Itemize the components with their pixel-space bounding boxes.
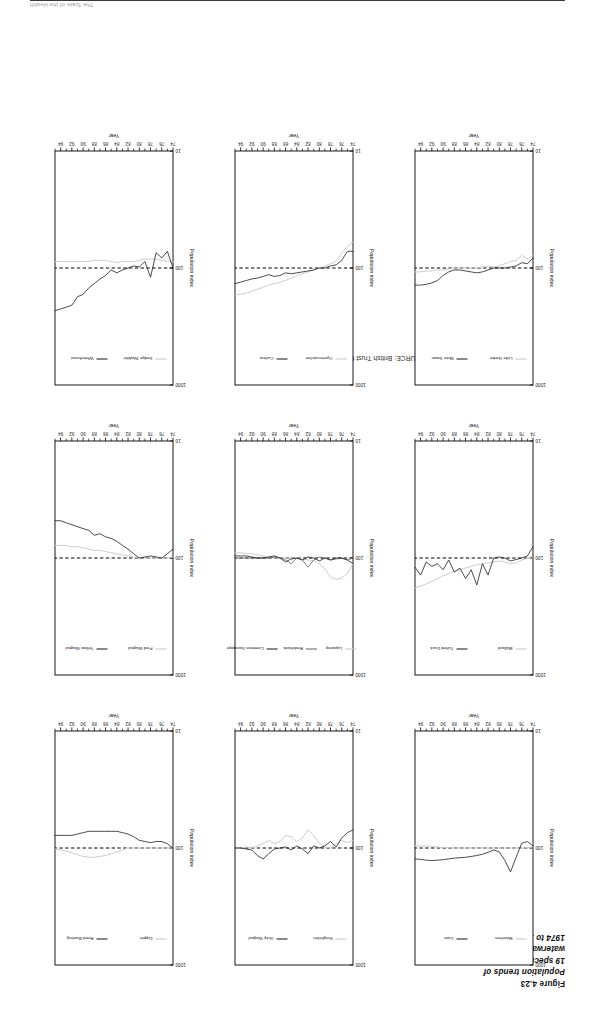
y-tick-label: 10	[535, 438, 541, 443]
x-tick-label: 80	[316, 721, 322, 726]
x-axis-title: Year	[468, 423, 479, 429]
y-tick-label: 10	[175, 148, 181, 153]
x-tick-label: 90	[260, 431, 266, 436]
x-tick-label: 80	[496, 141, 502, 146]
x-tick-label: 92	[429, 431, 435, 436]
running-header-rule	[30, 0, 565, 1]
y-tick-label: 1000	[535, 382, 546, 387]
y-tick-label: 100	[355, 845, 363, 850]
x-tick-label: 82	[485, 721, 491, 726]
x-tick-label: 88	[91, 721, 97, 726]
x-tick-label: 94	[58, 431, 64, 436]
panel-dipper-reed-bunting: 1000100107476788082848688909294YearPopul…	[47, 693, 207, 979]
legend-label: Dipper	[139, 936, 152, 941]
x-tick-label: 88	[91, 431, 97, 436]
y-tick-label: 1000	[355, 672, 366, 677]
y-axis-title: Population index	[549, 539, 555, 578]
x-tick-label: 74	[170, 721, 176, 726]
y-tick-label: 10	[355, 148, 361, 153]
y-tick-label: 1000	[535, 672, 546, 677]
x-tick-label: 78	[148, 141, 154, 146]
legend-label: Reed Bunting	[66, 936, 93, 941]
x-tick-label: 86	[103, 431, 109, 436]
y-tick-label: 100	[535, 555, 543, 560]
x-tick-label: 86	[283, 721, 289, 726]
y-tick-label: 1000	[175, 962, 186, 967]
chart-panel-grid: 1000100107476788082848688909294YearPopul…	[27, 109, 567, 979]
x-tick-label: 86	[463, 431, 469, 436]
x-tick-label: 92	[69, 141, 75, 146]
page-canvas: The State of the Health Figure 4.23 Popu…	[0, 0, 595, 1009]
x-tick-label: 94	[238, 721, 244, 726]
x-tick-label: 94	[58, 141, 64, 146]
x-tick-label: 88	[271, 721, 277, 726]
x-tick-label: 84	[114, 721, 120, 726]
x-tick-label: 84	[474, 721, 480, 726]
y-tick-label: 100	[175, 555, 183, 560]
x-tick-label: 80	[316, 431, 322, 436]
y-tick-label: 100	[355, 265, 363, 270]
x-tick-label: 82	[485, 431, 491, 436]
x-tick-label: 74	[530, 141, 536, 146]
legend-label: Curlew	[259, 356, 273, 361]
x-tick-label: 86	[103, 141, 109, 146]
x-tick-label: 74	[350, 431, 356, 436]
x-tick-label: 92	[249, 721, 255, 726]
running-header-text: The State of the Health	[30, 2, 93, 8]
x-tick-label: 90	[440, 141, 446, 146]
x-tick-label: 78	[328, 141, 334, 146]
x-tick-label: 84	[114, 141, 120, 146]
x-tick-label: 92	[69, 431, 75, 436]
x-tick-label: 82	[125, 431, 131, 436]
x-tick-label: 86	[283, 141, 289, 146]
panel-mallard-tufted-duck: 1000100107476788082848688909294YearPopul…	[407, 403, 567, 689]
x-tick-label: 82	[305, 141, 311, 146]
legend-label: Mallard	[498, 646, 513, 651]
x-tick-label: 76	[159, 721, 165, 726]
x-tick-label: 86	[283, 431, 289, 436]
x-tick-label: 82	[485, 141, 491, 146]
x-tick-label: 76	[159, 431, 165, 436]
x-tick-label: 80	[136, 721, 142, 726]
x-tick-label: 94	[418, 141, 424, 146]
legend-label: Kingfisher	[312, 936, 332, 941]
x-tick-label: 90	[80, 141, 86, 146]
y-axis-title: Population index	[549, 829, 555, 868]
legend-label: Sedge Warbler	[123, 356, 153, 361]
x-tick-label: 94	[418, 721, 424, 726]
x-tick-label: 88	[271, 141, 277, 146]
x-tick-label: 84	[294, 431, 300, 436]
x-tick-label: 78	[148, 721, 154, 726]
x-tick-label: 90	[440, 431, 446, 436]
y-axis-title: Population index	[189, 249, 195, 288]
y-tick-label: 100	[355, 555, 363, 560]
x-tick-label: 80	[496, 721, 502, 726]
x-tick-label: 92	[249, 431, 255, 436]
y-axis-title: Population index	[369, 249, 375, 288]
x-tick-label: 84	[114, 431, 120, 436]
x-axis-title: Year	[288, 713, 299, 719]
x-tick-label: 78	[508, 141, 514, 146]
y-tick-label: 10	[175, 438, 181, 443]
x-tick-label: 82	[305, 431, 311, 436]
y-tick-label: 10	[355, 728, 361, 733]
legend-label: Coot	[443, 936, 453, 941]
x-tick-label: 78	[508, 431, 514, 436]
y-tick-label: 10	[355, 438, 361, 443]
x-tick-label: 90	[440, 721, 446, 726]
x-tick-label: 94	[238, 141, 244, 146]
y-axis-title: Population index	[189, 829, 195, 868]
y-tick-label: 100	[535, 265, 543, 270]
x-tick-label: 92	[429, 141, 435, 146]
x-tick-label: 80	[496, 431, 502, 436]
x-tick-label: 76	[519, 721, 525, 726]
legend-label: Tufted Duck	[429, 646, 453, 651]
y-tick-label: 10	[535, 148, 541, 153]
legend-label: Little Grebe	[489, 356, 512, 361]
x-tick-label: 90	[80, 431, 86, 436]
x-tick-label: 84	[474, 141, 480, 146]
y-axis-title: Population index	[369, 829, 375, 868]
x-tick-label: 92	[69, 721, 75, 726]
x-axis-title: Year	[468, 713, 479, 719]
running-header: The State of the Health	[30, 0, 565, 13]
